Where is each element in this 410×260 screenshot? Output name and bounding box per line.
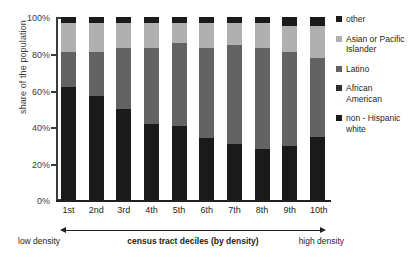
x-label-3rd: 3rd <box>116 204 131 218</box>
y-tick-mark-60 <box>51 91 57 93</box>
segment-non-hispanic-white <box>144 124 159 201</box>
segment-latino <box>61 52 76 87</box>
segment-non-hispanic-white <box>227 144 242 201</box>
x-axis-title: census tract deciles (by density) <box>58 236 328 246</box>
bar-10th[interactable] <box>310 17 325 201</box>
y-tick-40: 40% <box>16 124 50 132</box>
x-label-8th: 8th <box>255 204 270 218</box>
segment-latino <box>282 52 297 146</box>
x-label-2nd: 2nd <box>89 204 104 218</box>
legend-item-other[interactable]: other <box>336 14 410 25</box>
segment-asian-or-pacific-islander <box>61 23 76 52</box>
x-label-4th: 4th <box>144 204 159 218</box>
bar-5th[interactable] <box>172 17 187 201</box>
high-density-label: high density <box>299 236 344 246</box>
legend-label: Asian or Pacific Islander <box>346 34 410 55</box>
segment-asian-or-pacific-islander <box>116 23 131 49</box>
y-tick-60: 60% <box>16 88 50 96</box>
segment-asian-or-pacific-islander <box>255 23 270 49</box>
legend-label: non - Hispanic white <box>346 113 410 134</box>
y-tick-mark-40 <box>51 127 57 129</box>
bar-4th[interactable] <box>144 17 159 201</box>
bar-9th[interactable] <box>282 17 297 201</box>
segment-non-hispanic-white <box>172 126 187 201</box>
segment-non-hispanic-white <box>255 149 270 201</box>
segment-asian-or-pacific-islander <box>199 23 214 49</box>
legend-item-african-american[interactable]: African American <box>336 83 410 104</box>
bar-group <box>58 17 328 201</box>
segment-latino <box>89 52 104 96</box>
segment-non-hispanic-white <box>310 137 325 201</box>
segment-asian-or-pacific-islander <box>144 23 159 49</box>
stacked-bar-chart: share of the population 100% 80% 60% 40%… <box>0 0 410 260</box>
legend-label: African American <box>346 83 410 104</box>
legend-swatch-icon <box>336 66 342 72</box>
segment-latino <box>116 48 131 109</box>
x-label-5th: 5th <box>172 204 187 218</box>
segment-latino <box>255 48 270 149</box>
legend-item-non---hispanic-white[interactable]: non - Hispanic white <box>336 113 410 134</box>
segment-latino <box>199 48 214 138</box>
segment-non-hispanic-white <box>116 109 131 201</box>
segment-asian-or-pacific-islander <box>89 23 104 52</box>
segment-latino <box>172 43 187 126</box>
low-density-label: low density <box>18 236 60 246</box>
legend-item-latino[interactable]: Latino <box>336 64 410 75</box>
segment-other <box>310 17 325 26</box>
x-label-7th: 7th <box>227 204 242 218</box>
bar-1st[interactable] <box>61 17 76 201</box>
bar-2nd[interactable] <box>89 17 104 201</box>
legend-label: other <box>346 14 365 25</box>
x-axis-tick-labels: 1st2nd3rd4th5th6th7th8th9th10th <box>58 204 328 218</box>
segment-latino <box>144 48 159 123</box>
segment-latino <box>310 58 325 137</box>
segment-non-hispanic-white <box>89 96 104 201</box>
segment-asian-or-pacific-islander <box>282 26 297 52</box>
chart-legend: otherAsian or Pacific IslanderLatinoAfri… <box>336 14 410 143</box>
bar-6th[interactable] <box>199 17 214 201</box>
density-arrow <box>60 226 326 235</box>
y-tick-mark-80 <box>51 54 57 56</box>
segment-non-hispanic-white <box>282 146 297 201</box>
legend-swatch-icon <box>336 115 342 121</box>
legend-swatch-icon <box>336 85 342 91</box>
bar-7th[interactable] <box>227 17 242 201</box>
plot-area <box>58 17 328 201</box>
x-label-9th: 9th <box>282 204 297 218</box>
bar-8th[interactable] <box>255 17 270 201</box>
segment-non-hispanic-white <box>61 87 76 201</box>
y-axis-tick-labels: 100% 80% 60% 40% 20% 0% <box>14 0 50 260</box>
arrow-shaft <box>65 230 321 231</box>
segment-other <box>282 17 297 26</box>
x-label-1st: 1st <box>61 204 76 218</box>
y-tick-100: 100% <box>16 14 50 22</box>
x-label-10th: 10th <box>310 204 325 218</box>
legend-item-asian-or-pacific-islander[interactable]: Asian or Pacific Islander <box>336 34 410 55</box>
bar-3rd[interactable] <box>116 17 131 201</box>
y-tick-20: 20% <box>16 161 50 169</box>
legend-swatch-icon <box>336 36 342 42</box>
x-label-6th: 6th <box>199 204 214 218</box>
segment-non-hispanic-white <box>199 138 214 201</box>
segment-asian-or-pacific-islander <box>227 23 242 45</box>
segment-asian-or-pacific-islander <box>310 26 325 57</box>
legend-swatch-icon <box>336 16 342 22</box>
legend-label: Latino <box>346 64 369 75</box>
segment-asian-or-pacific-islander <box>172 23 187 43</box>
arrow-head-right-icon <box>320 227 326 233</box>
x-axis-line <box>56 200 331 202</box>
y-tick-80: 80% <box>16 51 50 59</box>
y-tick-0: 0% <box>16 197 50 205</box>
y-tick-mark-20 <box>51 164 57 166</box>
segment-latino <box>227 45 242 144</box>
